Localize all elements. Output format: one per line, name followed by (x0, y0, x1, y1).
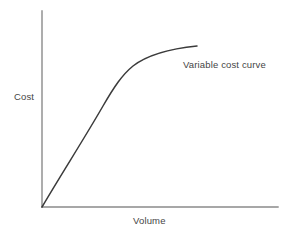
chart-canvas (0, 0, 290, 235)
curve-label-annotation: Variable cost curve (183, 59, 266, 71)
y-axis-label: Cost (14, 91, 34, 103)
variable-cost-curve-figure: Cost Volume Variable cost curve (0, 0, 290, 235)
x-axis-label: Volume (133, 215, 166, 227)
variable-cost-curve-line (42, 46, 197, 207)
